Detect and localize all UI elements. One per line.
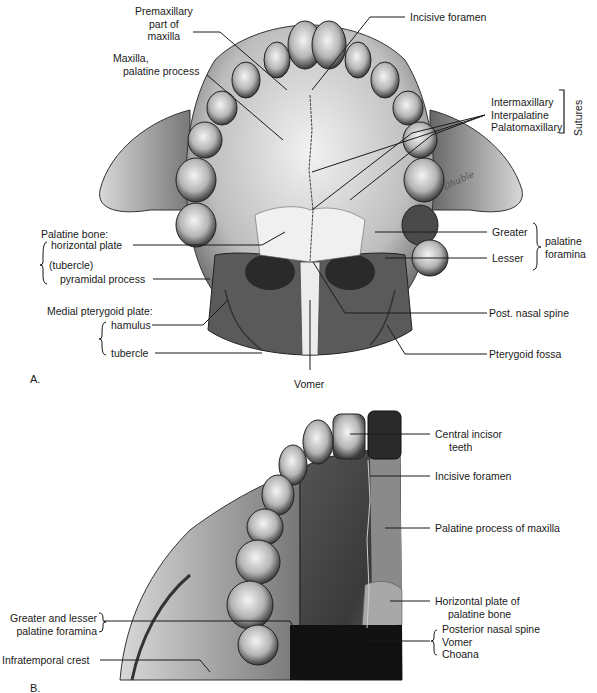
label-tubercle: tubercle <box>111 347 148 360</box>
label-vomer-a: Vomer <box>294 378 324 391</box>
label-interpalatine: Interpalatine <box>491 109 562 122</box>
label-greater: Greater <box>492 226 528 239</box>
label-horizontal-plate-line1: Horizontal plate of <box>435 595 520 608</box>
medial-pterygoid-brace <box>99 322 106 355</box>
label-incisive-foramen-b: Incisive foramen <box>435 470 511 483</box>
label-premaxillary-line3: maxilla <box>135 30 193 43</box>
label-vomer-b: Vomer <box>442 636 540 649</box>
label-post-nasal-spine: Post. nasal spine <box>489 307 569 320</box>
label-premaxillary: Premaxillary part of maxilla <box>135 5 193 43</box>
panel-letter-a: A. <box>30 373 40 385</box>
label-pyramidal-process: pyramidal process <box>60 273 145 286</box>
label-medial-pterygoid-plate: Medial pterygoid plate: <box>47 305 153 318</box>
label-hamulus: hamulus <box>111 319 151 332</box>
panel-letter-b: B. <box>30 682 40 693</box>
palatine-bone-brace <box>40 242 47 284</box>
label-choana: Choana <box>442 648 540 661</box>
label-pterygoid-fossa: Pterygoid fossa <box>489 348 561 361</box>
label-central-incisor-teeth: Central incisor teeth <box>435 428 502 453</box>
label-incisive-foramen-a: Incisive foramen <box>410 11 486 24</box>
label-suture-names: Intermaxillary Interpalatine Palatomaxil… <box>491 96 562 134</box>
panel-b-illustration <box>120 411 402 680</box>
label-sutures: Sutures <box>572 100 584 136</box>
label-greater-lesser-palatine-foramina: Greater and lesser palatine foramina <box>0 612 97 637</box>
label-maxilla-palatine-process: Maxilla, palatine process <box>113 52 199 77</box>
label-infratemporal-crest: Infratemporal crest <box>2 654 90 667</box>
label-horizontal-plate-of-palatine-bone: Horizontal plate of palatine bone <box>435 595 520 620</box>
label-premaxillary-line1: Premaxillary <box>135 5 193 18</box>
label-palatine-foramina-line2: foramina <box>545 248 586 261</box>
label-palatine-foramina-line1: palatine <box>545 235 586 248</box>
label-greater-lesser-line2: palatine foramina <box>0 625 97 638</box>
greater-lesser-brace <box>99 613 106 632</box>
label-palatine-process-of-maxilla: Palatine process of maxilla <box>435 522 560 535</box>
label-posterior-nasal-spine: Posterior nasal spine <box>442 623 540 636</box>
label-intermaxillary: Intermaxillary <box>491 96 562 109</box>
label-palatomaxillary: Palatomaxillary <box>491 121 562 134</box>
palatine-foramina-brace <box>533 223 541 270</box>
label-lesser: Lesser <box>492 252 524 265</box>
label-central-incisor-line1: Central incisor <box>435 428 502 441</box>
label-horizontal-plate: horizontal plate <box>51 239 122 252</box>
label-maxilla-line2: palatine process <box>113 65 199 78</box>
label-tubercle-paren: (tubercle) <box>49 259 93 272</box>
label-maxilla-line1: Maxilla, <box>113 52 199 65</box>
label-premaxillary-line2: part of <box>135 18 193 31</box>
label-greater-lesser-line1: Greater and lesser <box>0 612 97 625</box>
label-central-incisor-line2: teeth <box>435 441 502 454</box>
posterior-group-brace <box>431 630 437 655</box>
label-horizontal-plate-line2: palatine bone <box>435 608 520 621</box>
label-posterior-group: Posterior nasal spine Vomer Choana <box>442 623 540 661</box>
label-palatine-foramina: palatine foramina <box>545 235 586 260</box>
